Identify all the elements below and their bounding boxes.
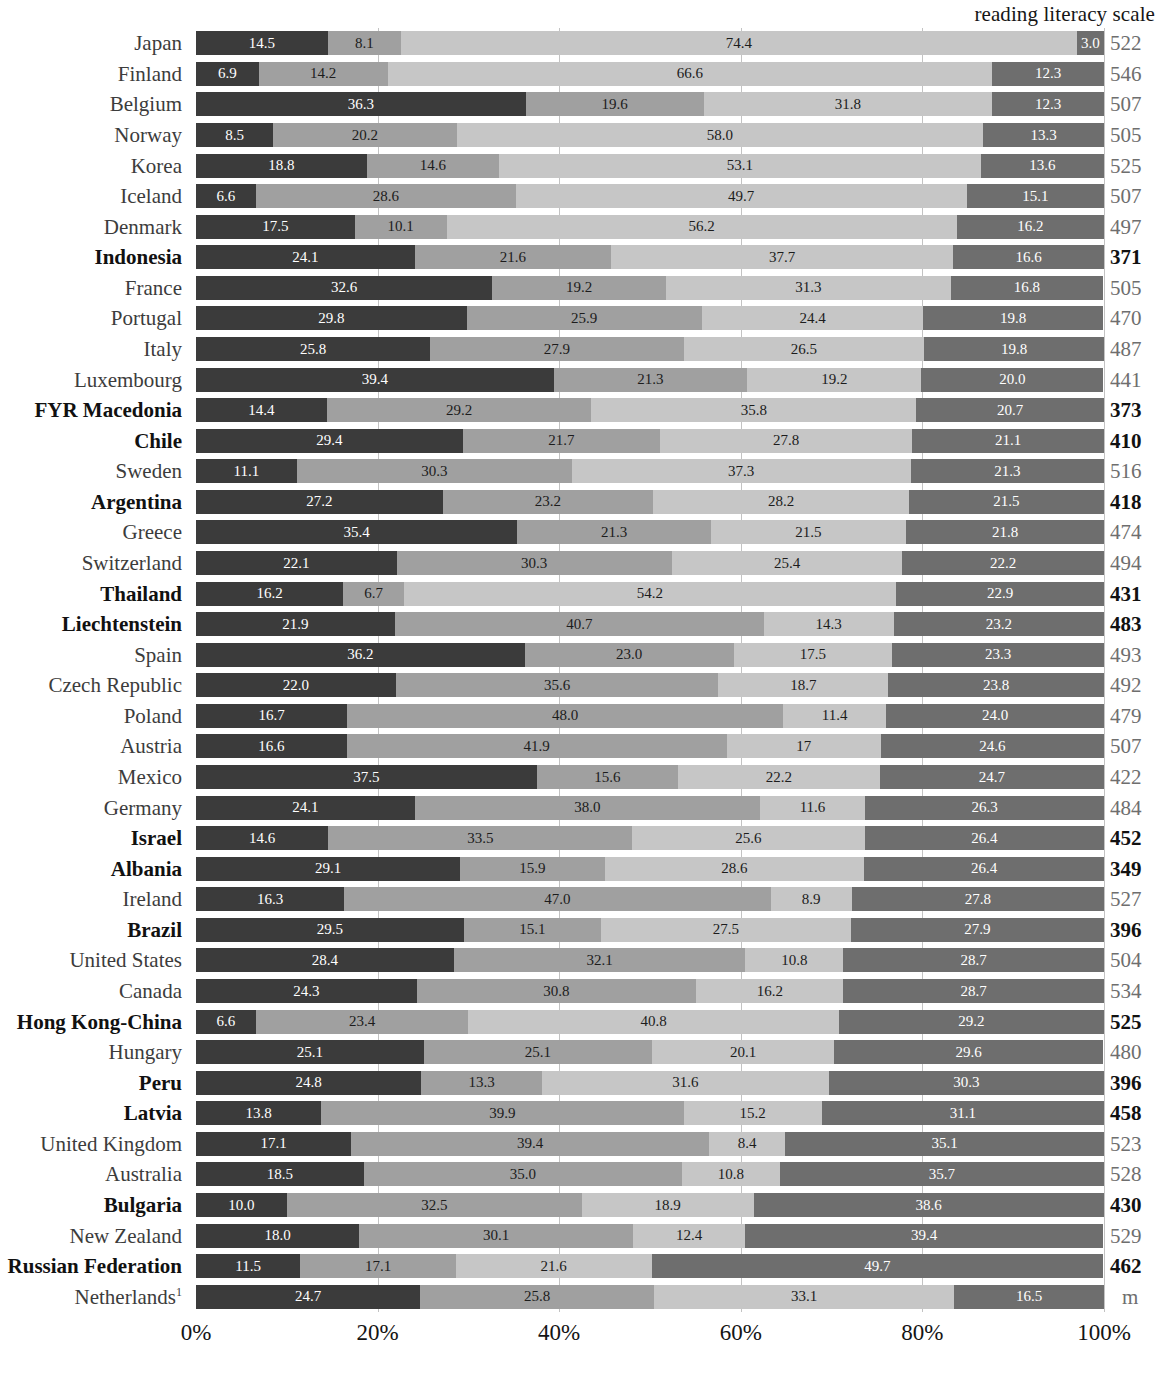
country-label: Poland: [124, 704, 182, 728]
segment-value-label: 38.0: [574, 799, 600, 816]
segment-value-label: 37.3: [728, 463, 754, 480]
bar-segment-1: 18.5: [196, 1162, 364, 1186]
bar-segment-1: 25.1: [196, 1040, 424, 1064]
country-label: Thailand: [100, 582, 182, 606]
segment-value-label: 24.8: [295, 1074, 321, 1091]
bar-segment-4: 26.4: [865, 826, 1104, 850]
segment-value-label: 21.5: [993, 493, 1019, 510]
segment-value-label: 8.1: [355, 35, 374, 52]
reading-literacy-scale-value: 528: [1110, 1162, 1142, 1186]
bar-segment-3: 21.6: [456, 1254, 652, 1278]
bar-segment-3: 22.2: [678, 765, 880, 789]
stacked-bar: 22.130.325.422.2: [196, 551, 1104, 575]
stacked-bar: 24.121.637.716.6: [196, 245, 1104, 269]
bar-row: 14.633.525.626.4: [196, 826, 1104, 850]
bar-segment-2: 23.4: [256, 1010, 468, 1034]
bar-segment-2: 30.1: [359, 1224, 632, 1248]
segment-value-label: 31.3: [795, 279, 821, 296]
bar-segment-4: 15.1: [967, 184, 1104, 208]
bar-segment-1: 18.8: [196, 154, 367, 178]
bar-segment-3: 53.1: [499, 154, 981, 178]
country-label: Latvia: [124, 1101, 182, 1125]
bar-row: 6.623.440.829.2: [196, 1010, 1104, 1034]
segment-value-label: 41.9: [523, 738, 549, 755]
stacked-bar: 22.035.618.723.8: [196, 673, 1104, 697]
segment-value-label: 6.7: [364, 585, 383, 602]
bar-segment-1: 14.5: [196, 31, 328, 55]
reading-literacy-scale-value: 504: [1110, 948, 1142, 972]
bar-segment-4: 27.8: [852, 887, 1104, 911]
country-label: Iceland: [120, 184, 182, 208]
country-label: Bulgaria: [104, 1193, 182, 1217]
segment-value-label: 22.1: [283, 555, 309, 572]
bar-segment-3: 11.6: [760, 796, 865, 820]
stacked-bar: 25.827.926.519.8: [196, 337, 1104, 361]
bar-segment-2: 14.6: [367, 154, 499, 178]
country-label: New Zealand: [69, 1224, 182, 1248]
gridline: [1104, 28, 1105, 1312]
bar-segment-3: 28.6: [605, 857, 865, 881]
bar-segment-4: 21.1: [912, 429, 1104, 453]
segment-value-label: 15.2: [739, 1105, 765, 1122]
bar-segment-4: 21.5: [909, 490, 1104, 514]
plot-area: 14.58.174.43.06.914.266.612.336.319.631.…: [196, 28, 1104, 1312]
bar-row: 11.517.121.649.7: [196, 1254, 1104, 1278]
bar-segment-1: 13.8: [196, 1101, 321, 1125]
bar-segment-1: 16.3: [196, 887, 344, 911]
segment-value-label: 3.0: [1081, 35, 1100, 52]
bar-segment-1: 11.1: [196, 459, 297, 483]
country-label: Hong Kong-China: [17, 1010, 182, 1034]
stacked-bar: 21.940.714.323.2: [196, 612, 1104, 636]
segment-value-label: 18.9: [655, 1197, 681, 1214]
reading-literacy-scale-value: 479: [1110, 704, 1142, 728]
segment-value-label: 17.5: [262, 218, 288, 235]
bar-segment-1: 24.1: [196, 796, 415, 820]
bar-row: 25.827.926.519.8: [196, 337, 1104, 361]
segment-value-label: 32.5: [421, 1197, 447, 1214]
bar-segment-1: 8.5: [196, 123, 273, 147]
reading-literacy-scale-column: 5225465075055255074973715054704874413734…: [1110, 28, 1161, 1312]
segment-value-label: 26.3: [971, 799, 997, 816]
segment-value-label: 6.6: [217, 188, 236, 205]
segment-value-label: 21.3: [994, 463, 1020, 480]
bar-segment-3: 58.0: [457, 123, 984, 147]
segment-value-label: 24.7: [295, 1288, 321, 1305]
bar-segment-4: 39.4: [745, 1224, 1103, 1248]
segment-value-label: 28.2: [768, 493, 794, 510]
reading-literacy-scale-value: 483: [1110, 612, 1142, 636]
country-label: Netherlands1: [75, 1285, 182, 1309]
reading-literacy-scale-value: 507: [1110, 92, 1142, 116]
segment-value-label: 74.4: [726, 35, 752, 52]
bar-segment-3: 74.4: [401, 31, 1077, 55]
bar-segment-3: 37.3: [572, 459, 911, 483]
segment-value-label: 29.5: [317, 921, 343, 938]
bar-segment-1: 29.1: [196, 857, 460, 881]
segment-value-label: 18.7: [790, 677, 816, 694]
segment-value-label: 11.1: [234, 463, 260, 480]
segment-value-label: 14.5: [249, 35, 275, 52]
segment-value-label: 38.6: [916, 1197, 942, 1214]
bar-segment-2: 21.3: [554, 368, 747, 392]
bar-row: 24.725.833.116.5: [196, 1285, 1104, 1309]
segment-value-label: 30.8: [543, 983, 569, 1000]
reading-literacy-scale-value: 422: [1110, 765, 1142, 789]
bar-segment-4: 16.8: [951, 276, 1104, 300]
segment-value-label: 25.9: [571, 310, 597, 327]
bar-segment-4: 23.2: [894, 612, 1104, 636]
bar-segment-1: 36.2: [196, 643, 525, 667]
bar-segment-2: 23.0: [525, 643, 734, 667]
stacked-bar: 18.030.112.439.4: [196, 1224, 1104, 1248]
segment-value-label: 30.3: [521, 555, 547, 572]
stacked-bar: 28.432.110.828.7: [196, 948, 1104, 972]
bar-segment-4: 16.2: [957, 215, 1104, 239]
bar-row: 29.825.924.419.8: [196, 306, 1104, 330]
reading-literacy-scale-value: 396: [1110, 918, 1142, 942]
country-label: Norway: [114, 123, 182, 147]
segment-value-label: 23.2: [986, 616, 1012, 633]
bar-segment-4: 31.1: [822, 1101, 1104, 1125]
bar-segment-2: 6.7: [343, 582, 404, 606]
bar-row: 24.330.816.228.7: [196, 979, 1104, 1003]
segment-value-label: 36.2: [347, 646, 373, 663]
segment-value-label: 28.4: [312, 952, 338, 969]
stacked-bar: 6.914.266.612.3: [196, 62, 1104, 86]
